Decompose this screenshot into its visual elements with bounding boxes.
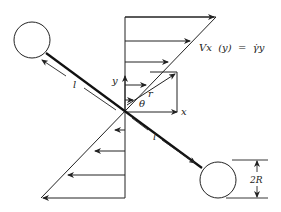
label-l-upper: l [73,79,76,90]
upper-velocity-arrows [125,17,214,100]
length-arrow-lower-a [132,118,148,130]
length-arrow-lower-b [162,140,195,163]
label-y-axis: y [111,75,118,86]
lower-velocity-arrows [43,130,125,198]
shear-flow-dumbbell-diagram: l l y x r θ Vx (y) = γ̇y 2R [0,0,281,212]
sphere-lower-right [200,162,236,198]
label-r: r [148,88,154,99]
label-diameter: 2R [249,175,263,185]
sphere-upper-left [14,22,50,58]
label-x-axis: x [181,106,187,117]
label-velocity-equation: Vx (y) = γ̇y [199,42,265,53]
label-l-lower: l [153,131,156,142]
profile-diagonal [41,17,216,198]
length-arrow-upper-a [42,60,66,76]
length-arrow-upper-b [84,88,116,110]
label-theta: θ [139,98,145,109]
